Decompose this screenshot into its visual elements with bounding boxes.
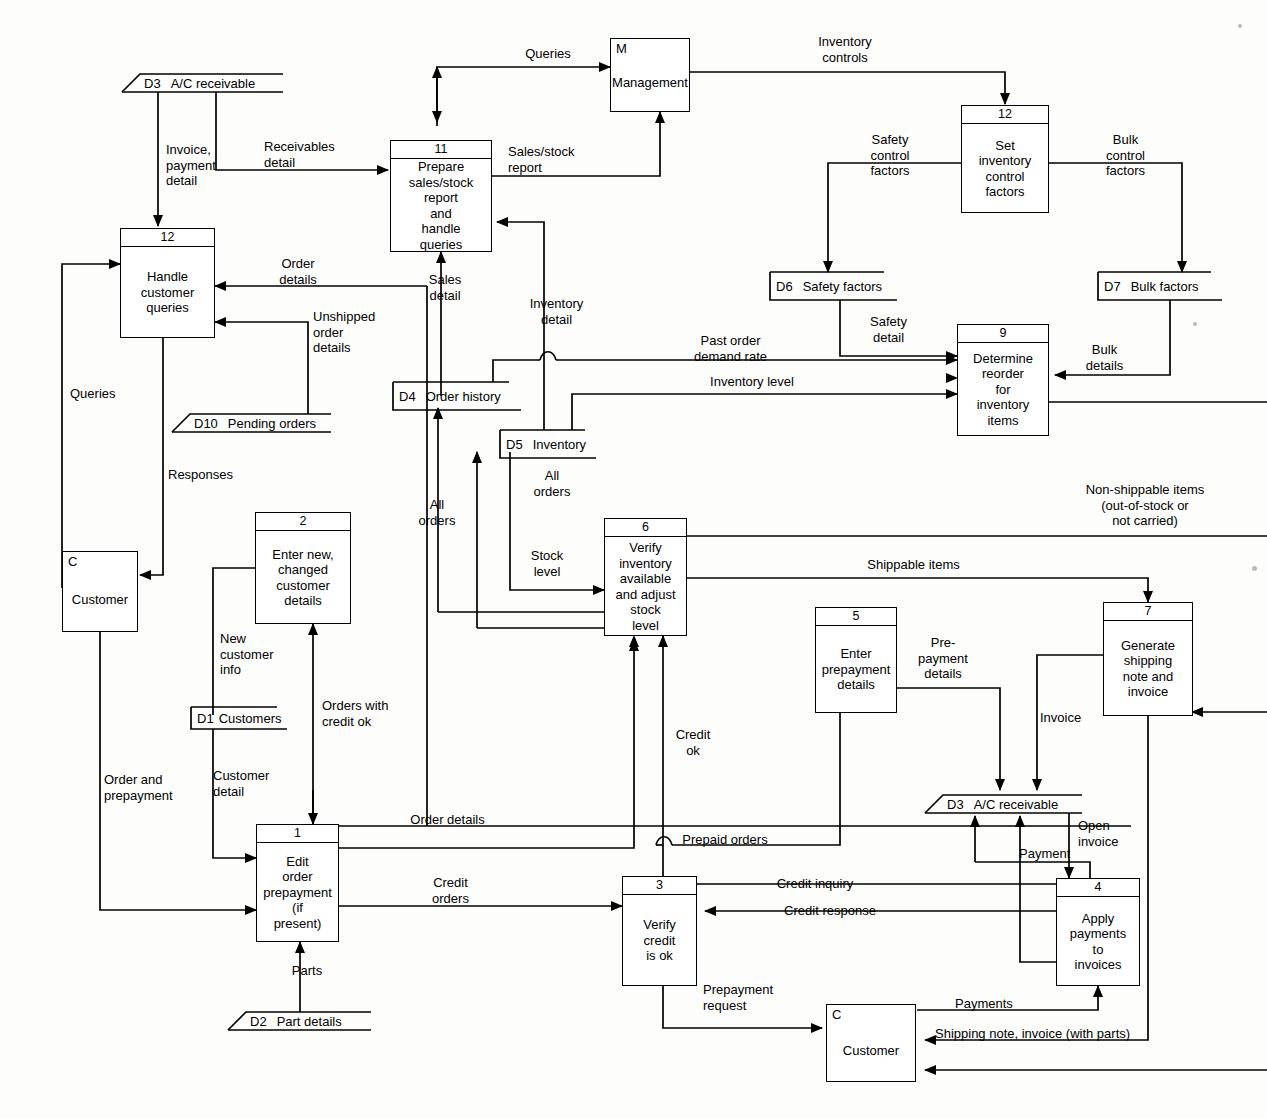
store-name: Safety factors [793,279,882,294]
datastore-d4-order-history[interactable]: D4 Order history [393,382,521,410]
flow-label-orders-with-credit-ok: Orders with credit ok [322,698,427,729]
datastore-d10-pending-orders[interactable]: D10 Pending orders [172,414,331,432]
flow-label-credit-inquiry: Credit inquiry [700,876,930,892]
flow-label-credit-orders: Credit orders [408,875,493,906]
external-entity-management[interactable]: M Management [610,38,690,112]
process-label: Edit order prepayment (if present) [257,843,338,942]
scan-speck [1252,566,1257,571]
store-name: A/C receivable [964,797,1059,812]
process-number: 11 [391,141,491,159]
flow-label-payment: Payment [1019,846,1099,862]
process-label: Verify credit is ok [623,895,696,986]
flow-label-credit-response: Credit response [710,903,950,919]
process-number: 12 [121,229,214,247]
store-code: D1 [191,711,214,726]
flow-label-invoice: Invoice [1040,710,1110,726]
process-label: Apply payments to invoices [1057,897,1139,986]
process-label: Handle customer queries [121,247,214,338]
flow-label-bulk-control-factors: Bulk control factors [1078,132,1173,179]
store-name: Customers [214,711,282,726]
flow-label-bulk-details: Bulk details [1062,342,1147,373]
flow-label-past-order-demand-rate: Past order demand rate [658,333,803,364]
process-5-enter-prepayment-details[interactable]: 5 Enter prepayment details [815,607,897,713]
flow-label-safety-control-factors: Safety control factors [840,132,940,179]
process-6-verify-inventory-available[interactable]: 6 Verify inventory available and adjust … [604,518,687,636]
entity-name: Management [611,75,689,90]
flow-label-new-customer-info: New customer info [220,631,310,678]
flow-label-shipping-note-invoice: Shipping note, invoice (with parts) [935,1026,1185,1042]
process-number: 4 [1057,879,1139,897]
entity-name: Customer [63,592,137,607]
store-name: A/C receivable [161,76,256,91]
process-number: 5 [816,608,896,626]
process-12-set-inventory-control-factors[interactable]: 12 Set inventory control factors [961,105,1049,213]
store-name: Inventory [523,437,586,452]
flow-label-open-invoice: Open invoice [1078,818,1158,849]
process-4-apply-payments-to-invoices[interactable]: 4 Apply payments to invoices [1056,878,1140,986]
store-code: D2 [228,1014,267,1029]
entity-code: C [68,554,77,569]
flow-label-customer-detail: Customer detail [213,768,303,799]
store-code: D3 [122,76,161,91]
flow-label-non-shippable-items: Non-shippable items (out-of-stock or not… [1050,482,1240,529]
store-code: D4 [393,389,416,404]
datastore-d3-top[interactable]: D3 A/C receivable [122,74,283,92]
store-code: D5 [500,437,523,452]
flow-label-queries-left: Queries [70,386,150,402]
flow-label-prepaid-orders: Prepaid orders [645,832,805,848]
flow-label-stock-level: Stock level [512,548,582,579]
process-1-edit-order-prepayment[interactable]: 1 Edit order prepayment (if present) [256,824,339,942]
datastore-d2-part-details[interactable]: D2 Part details [228,1012,371,1030]
entity-code: C [832,1007,841,1022]
process-11-prepare-sales-stock-report[interactable]: 11 Prepare sales/stock report and handle… [390,140,492,252]
datastore-d7-bulk-factors[interactable]: D7 Bulk factors [1098,272,1222,300]
flow-label-order-details-bottom: Order details [380,812,515,828]
flow-label-inventory-controls: Inventory controls [795,34,895,65]
process-3-verify-credit-is-ok[interactable]: 3 Verify credit is ok [622,876,697,986]
process-number: 9 [958,325,1048,343]
flow-label-safety-detail: Safety detail [846,314,931,345]
flow-label-receivables-detail: Receivables detail [264,139,374,170]
external-entity-customer-left[interactable]: C Customer [62,551,138,632]
flow-label-queries-management: Queries [508,46,588,62]
flow-label-unshipped-order-details: Unshipped order details [313,309,418,356]
flow-label-payments: Payments [955,996,1055,1012]
store-code: D7 [1098,279,1121,294]
process-12-handle-customer-queries[interactable]: 12 Handle customer queries [120,228,215,338]
process-7-generate-shipping-note-invoice[interactable]: 7 Generate shipping note and invoice [1103,602,1193,716]
process-number: 1 [257,825,338,843]
process-2-enter-customer-details[interactable]: 2 Enter new, changed customer details [255,512,351,624]
process-label: Generate shipping note and invoice [1104,621,1192,716]
flow-label-inventory-detail: Inventory detail [509,296,604,327]
scan-speck [1193,322,1197,326]
store-name: Order history [416,389,501,404]
flow-label-prepayment-request: Prepayment request [703,982,823,1013]
flow-label-invoice-payment-detail: Invoice, payment detail [166,142,261,189]
entity-name: Customer [827,1043,915,1058]
datastore-d3-bottom[interactable]: D3 A/C receivable [925,795,1082,813]
process-label: Enter new, changed customer details [256,531,350,624]
scan-speck [1238,24,1242,28]
process-9-determine-reorder[interactable]: 9 Determine reorder for inventory items [957,324,1049,436]
flow-label-order-and-prepayment: Order and prepayment [104,772,204,803]
process-label: Verify inventory available and adjust st… [605,537,686,636]
store-code: D3 [925,797,964,812]
process-label: Determine reorder for inventory items [958,343,1048,436]
process-number: 12 [962,106,1048,124]
process-label: Enter prepayment details [816,626,896,713]
process-label: Set inventory control factors [962,124,1048,213]
store-name: Part details [267,1014,342,1029]
external-entity-customer-bottom[interactable]: C Customer [826,1004,916,1082]
flow-label-sales-detail: Sales detail [405,272,485,303]
datastore-d6-safety-factors[interactable]: D6 Safety factors [770,272,897,300]
flow-label-shippable-items: Shippable items [841,557,986,573]
flow-label-inventory-level: Inventory level [682,374,822,390]
store-code: D6 [770,279,793,294]
flow-label-all-orders-d5: All orders [517,468,587,499]
datastore-d5-inventory[interactable]: D5 Inventory [500,430,596,458]
flow-label-responses: Responses [168,467,268,483]
process-label: Prepare sales/stock report and handle qu… [391,159,491,252]
flow-label-sales-stock-report: Sales/stock report [508,144,618,175]
datastore-d1-customers[interactable]: D1 Customers [191,707,287,729]
store-code: D10 [172,416,218,431]
